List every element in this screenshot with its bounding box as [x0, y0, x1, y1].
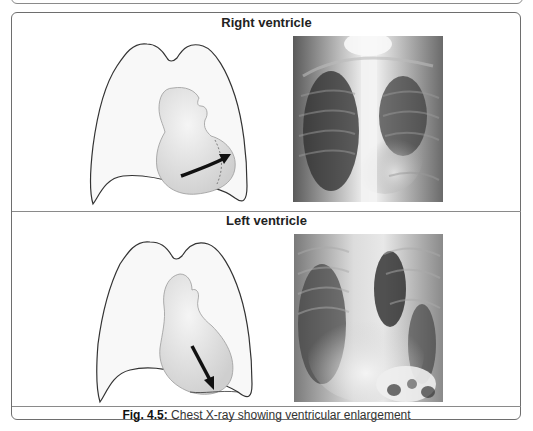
panel-title-right-ventricle: Right ventricle: [12, 15, 521, 30]
figure-caption-text: Chest X-ray showing ventricular enlargem…: [168, 408, 411, 422]
lungs-heart-diagram-icon: [85, 36, 255, 206]
previous-figure-box-edge: [11, 0, 523, 4]
panel-title-left-ventricle: Left ventricle: [12, 213, 521, 228]
chest-xray-image-left-ventricle: [294, 234, 443, 402]
figure-caption: Fig. 4.5: Chest X-ray showing ventricula…: [12, 408, 521, 422]
chest-xray-image-icon: [293, 36, 443, 202]
lungs-heart-diagram-icon: [92, 234, 262, 404]
panel-divider: [12, 211, 521, 212]
caption-divider: [12, 406, 521, 407]
chest-xray-image-icon: [294, 234, 443, 402]
chest-xray-image-right-ventricle: [293, 36, 443, 202]
figure-caption-label: Fig. 4.5:: [122, 408, 167, 422]
